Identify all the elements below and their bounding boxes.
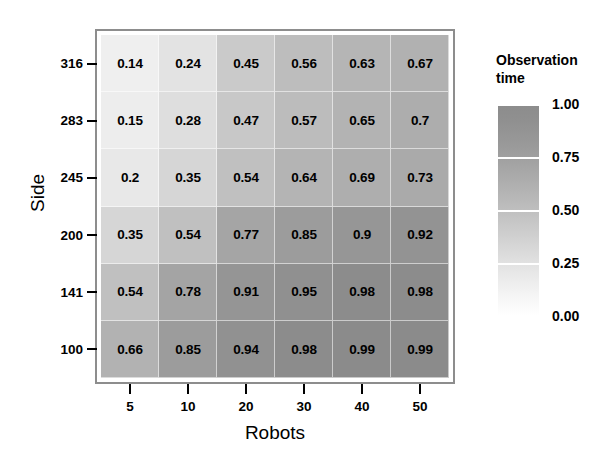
heatmap-cell: 0.2245 xyxy=(101,149,159,206)
y-axis-tick: 316 xyxy=(60,35,101,92)
colorbar-tick-label: 0.75 xyxy=(552,150,579,164)
heatmap-cell: 0.47 xyxy=(217,92,275,149)
heatmap-cell: 0.54 xyxy=(217,149,275,206)
y-axis-tick-label: 245 xyxy=(60,170,83,185)
colorbar-tick-mark xyxy=(498,263,539,265)
x-axis-tick-mark xyxy=(303,384,305,394)
heatmap-cell: 0.95 xyxy=(275,264,333,321)
x-axis-title: Robots xyxy=(95,422,455,444)
heatmap-cell: 0.63 xyxy=(333,35,391,92)
heatmap-cell: 0.64 xyxy=(275,149,333,206)
heatmap-cell-value: 0.85 xyxy=(175,343,200,357)
x-axis-tick: 5 xyxy=(126,378,134,424)
x-axis-tick: 50 xyxy=(412,378,427,424)
heatmap-cell-value: 0.63 xyxy=(349,57,374,71)
x-axis-tick-mark xyxy=(361,384,363,394)
heatmap-cell: 0.35200 xyxy=(101,207,159,264)
heatmap-cell: 0.28 xyxy=(159,92,217,149)
y-axis-tick-label: 200 xyxy=(60,228,83,243)
heatmap-cell-value: 0.91 xyxy=(233,285,258,299)
x-axis-tick: 20 xyxy=(238,378,253,424)
heatmap-cell-value: 0.77 xyxy=(233,228,258,242)
heatmap-cell-value: 0.35 xyxy=(175,171,200,185)
heatmap-cell-value: 0.73 xyxy=(407,171,432,185)
heatmap-cell-value: 0.57 xyxy=(291,114,316,128)
heatmap-cell: 0.98 xyxy=(391,264,449,321)
heatmap-cell: 0.77 xyxy=(217,207,275,264)
heatmap-cell: 0.8510 xyxy=(159,321,217,378)
x-axis-tick-label: 10 xyxy=(180,399,195,414)
x-axis-tick: 10 xyxy=(180,378,195,424)
heatmap-cell-value: 0.67 xyxy=(407,57,432,71)
heatmap-cell-value: 0.95 xyxy=(291,285,316,299)
x-axis-tick-mark xyxy=(129,384,131,394)
y-axis-tick: 100 xyxy=(60,321,101,378)
heatmap-cell: 0.69 xyxy=(333,149,391,206)
heatmap-cell-value: 0.69 xyxy=(349,171,374,185)
legend-title-line-1: Observation xyxy=(496,52,611,70)
heatmap-cell-value: 0.78 xyxy=(175,285,200,299)
heatmap-cell: 0.78 xyxy=(159,264,217,321)
heatmap-cell: 0.67 xyxy=(391,35,449,92)
x-axis-tick-label: 30 xyxy=(296,399,311,414)
y-axis-tick-label: 283 xyxy=(60,113,83,128)
colorbar-legend: Observation time 1.000.750.500.250.00 xyxy=(496,52,608,332)
heatmap-cell-value: 0.99 xyxy=(349,343,374,357)
x-axis-tick-mark xyxy=(187,384,189,394)
heatmap-cell: 0.85 xyxy=(275,207,333,264)
heatmap-cell: 0.9940 xyxy=(333,321,391,378)
colorbar-tick-mark xyxy=(498,157,539,159)
y-axis-tick-label: 100 xyxy=(60,342,83,357)
heatmap-cell: 0.56 xyxy=(275,35,333,92)
heatmap-cell-value: 0.45 xyxy=(233,57,258,71)
y-axis-tick: 245 xyxy=(60,149,101,206)
heatmap-cell-value: 0.24 xyxy=(175,57,200,71)
heatmap-cell-value: 0.7 xyxy=(411,114,429,128)
heatmap-cell-value: 0.64 xyxy=(291,171,316,185)
y-axis-title: Side xyxy=(27,133,49,253)
x-axis-tick-label: 20 xyxy=(238,399,253,414)
heatmap-figure: 0.143160.240.450.560.630.670.152830.280.… xyxy=(0,0,611,463)
plot-panel: 0.143160.240.450.560.630.670.152830.280.… xyxy=(95,29,455,384)
y-axis-tick-label: 316 xyxy=(60,56,83,71)
y-axis-tick-mark xyxy=(87,177,97,179)
heatmap-cell-value: 0.56 xyxy=(291,57,316,71)
heatmap-cell: 0.57 xyxy=(275,92,333,149)
heatmap-cell-value: 0.9 xyxy=(353,228,371,242)
y-axis-tick: 283 xyxy=(60,92,101,149)
heatmap-grid: 0.143160.240.450.560.630.670.152830.280.… xyxy=(101,35,449,378)
heatmap-cell: 0.9950 xyxy=(391,321,449,378)
heatmap-cell-value: 0.65 xyxy=(349,114,374,128)
heatmap-cell-value: 0.28 xyxy=(175,114,200,128)
heatmap-cell: 0.54 xyxy=(159,207,217,264)
heatmap-cell-value: 0.54 xyxy=(233,171,258,185)
x-axis-tick-label: 5 xyxy=(126,399,134,414)
y-axis-tick-label: 141 xyxy=(60,285,83,300)
heatmap-cell: 0.45 xyxy=(217,35,275,92)
x-axis-tick-label: 50 xyxy=(412,399,427,414)
heatmap-cell-value: 0.54 xyxy=(175,228,200,242)
heatmap-cell: 0.14316 xyxy=(101,35,159,92)
x-axis-tick-mark xyxy=(245,384,247,394)
heatmap-cell: 0.65 xyxy=(333,92,391,149)
y-axis-tick: 200 xyxy=(60,207,101,264)
heatmap-cell-value: 0.15 xyxy=(117,114,142,128)
heatmap-cell: 0.7 xyxy=(391,92,449,149)
heatmap-cell: 0.661005 xyxy=(101,321,159,378)
colorbar-tick-label: 0.25 xyxy=(552,256,579,270)
y-axis-tick-mark xyxy=(87,348,97,350)
heatmap-cell: 0.54141 xyxy=(101,264,159,321)
heatmap-cell-value: 0.98 xyxy=(349,285,374,299)
y-axis-tick-mark xyxy=(87,120,97,122)
heatmap-cell-value: 0.85 xyxy=(291,228,316,242)
heatmap-cell-value: 0.98 xyxy=(407,285,432,299)
heatmap-cell: 0.9 xyxy=(333,207,391,264)
x-axis-tick-label: 40 xyxy=(354,399,369,414)
heatmap-cell: 0.9830 xyxy=(275,321,333,378)
heatmap-cell-value: 0.99 xyxy=(407,343,432,357)
colorbar-tick-label: 0.50 xyxy=(552,203,579,217)
heatmap-cell: 0.98 xyxy=(333,264,391,321)
heatmap-cell: 0.9420 xyxy=(217,321,275,378)
y-axis-tick-mark xyxy=(87,234,97,236)
y-axis-tick: 141 xyxy=(60,264,101,321)
